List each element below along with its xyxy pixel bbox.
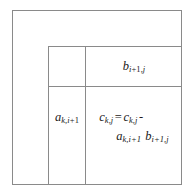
b-factor-subscript: i+1,j: [151, 134, 168, 144]
formula-line-2: ak,i+1bi+1,j: [116, 128, 169, 146]
c-update-block: ck,j=ck,j- ak,i+1bi+1,j: [86, 87, 182, 185]
update-formula: ck,j=ck,j- ak,i+1bi+1,j: [99, 109, 169, 146]
b-row-block: bi+1,j: [86, 47, 182, 86]
b-subscript: i+1,j: [129, 64, 145, 74]
minus-sign: -: [138, 110, 145, 124]
a-factor-subscript: k,i+1: [122, 134, 141, 144]
empty-corner-cell: [49, 47, 85, 86]
a-column-block: ak,i+1: [49, 87, 85, 185]
equals-sign: =: [113, 110, 123, 124]
a-subscript: k,i+1: [61, 115, 79, 125]
formula-line-1: ck,j=ck,j-: [99, 109, 144, 127]
c-rhs-subscript: k,j: [129, 115, 138, 125]
matrix-block-diagram: bi+1,j ak,i+1 ck,j=ck,j- ak,i+1bi+1,j: [0, 0, 193, 196]
b-block-label: bi+1,j: [123, 58, 146, 76]
a-block-label: ak,i+1: [55, 109, 79, 127]
